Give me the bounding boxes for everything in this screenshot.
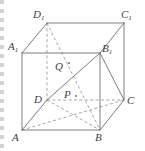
label-D: D (34, 94, 42, 105)
label-B1: B1 (102, 43, 112, 56)
label-D1-sub: 1 (41, 14, 45, 22)
cube-drawing (0, 0, 145, 151)
label-Q-base: Q (55, 60, 63, 72)
label-D1: D1 (33, 9, 44, 22)
edge-D1-A1 (22, 23, 47, 53)
label-P-base: P (64, 88, 71, 100)
edge-D-B (47, 100, 100, 130)
label-A1: A1 (8, 41, 18, 54)
geometry-figure: D1 C1 A1 B1 Q D P C A B (0, 0, 145, 151)
label-B-base: B (95, 131, 102, 143)
point-Q-dot (68, 62, 70, 64)
label-B: B (95, 132, 102, 143)
label-A1-sub: 1 (15, 46, 19, 54)
label-A: A (12, 132, 19, 143)
label-C-base: C (127, 94, 134, 106)
point-P-dot (75, 95, 77, 97)
edge-B1-C (100, 53, 124, 100)
label-A1-base: A (8, 40, 15, 52)
label-A-base: A (12, 131, 19, 143)
label-D1-base: D (33, 8, 41, 20)
label-C1: C1 (121, 9, 132, 22)
label-Q: Q (55, 61, 63, 72)
label-B1-base: B (102, 42, 109, 54)
label-P: P (64, 89, 71, 100)
edge-B-C (100, 100, 124, 130)
label-D-base: D (34, 93, 42, 105)
solid-edges (22, 23, 124, 130)
label-B1-sub: 1 (109, 48, 113, 56)
label-C1-sub: 1 (128, 14, 132, 22)
label-C: C (127, 95, 134, 106)
